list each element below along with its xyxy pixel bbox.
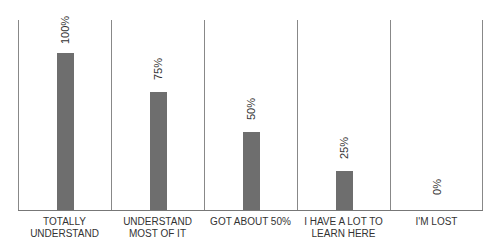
- bar: [150, 92, 167, 210]
- chart-column-2: 50%: [204, 20, 297, 210]
- category-label: UNDERSTANDMOST OF IT: [111, 216, 204, 240]
- chart-plot-area: 100%75%50%25%0%: [18, 20, 483, 211]
- category-label: TOTALLYUNDERSTAND: [18, 216, 111, 240]
- chart-column-4: 0%: [390, 20, 483, 210]
- chart-column-1: 75%: [111, 20, 204, 210]
- bar: [57, 53, 74, 210]
- value-label: 75%: [150, 54, 167, 84]
- bar: [243, 132, 260, 211]
- chart-column-0: 100%: [18, 20, 111, 210]
- category-label: GOT ABOUT 50%: [204, 216, 297, 228]
- value-label: 100%: [57, 15, 74, 45]
- category-label: I HAVE A LOT TOLEARN HERE: [297, 216, 390, 240]
- bar: [336, 171, 353, 210]
- category-label: I'M LOST: [390, 216, 483, 228]
- value-label: 0%: [429, 172, 446, 202]
- chart-column-3: 25%: [297, 20, 390, 210]
- value-label: 25%: [336, 133, 353, 163]
- value-label: 50%: [243, 94, 260, 124]
